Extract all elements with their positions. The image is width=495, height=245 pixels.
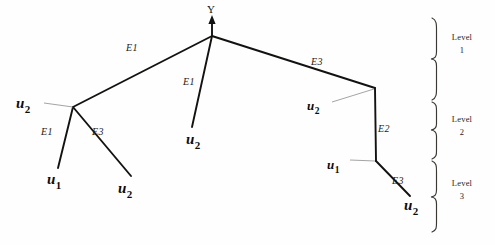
node-label-right-corner-u2: u2: [307, 99, 319, 116]
level-braces: [431, 18, 437, 232]
level-annotation-3: Level 3: [447, 177, 477, 203]
brace-level-2: [431, 102, 437, 159]
node-subscript: 2: [25, 103, 31, 115]
edge-root-to-left-junction: [73, 36, 212, 107]
level-annotation-name: Level: [447, 177, 477, 190]
node-base-letter: u: [186, 131, 194, 147]
edge-left-junction-to-u1: [58, 107, 73, 168]
edge-label-right-u2: E3: [392, 176, 404, 186]
node-base-letter: u: [118, 180, 126, 196]
node-label-middle-leaf-u2: u2: [186, 132, 200, 151]
edge-label-root-left: E1: [126, 43, 138, 53]
root-node-label: Y: [207, 4, 215, 15]
edge-root-to-right-corner: [212, 36, 375, 88]
node-base-letter: u: [47, 171, 55, 187]
level-annotation-number: 1: [447, 44, 477, 57]
level-annotation-number: 2: [447, 126, 477, 139]
edge-label-root-middle: E1: [183, 77, 195, 87]
level-annotation-name: Level: [447, 113, 477, 126]
node-subscript: 1: [335, 165, 340, 175]
tree-diagram: Y E1 E1 E3 E1 E3 E2 E3 u2 u1 u2 u2 u2 u1…: [0, 0, 495, 245]
level-annotation-2: Level 2: [447, 113, 477, 139]
brace-level-1: [431, 18, 437, 100]
node-label-left-junction: u2: [16, 96, 30, 115]
edge-label-left-u1: E1: [41, 127, 53, 137]
node-subscript: 2: [127, 188, 133, 200]
diagram-canvas: [0, 0, 495, 245]
node-subscript: 2: [195, 139, 201, 151]
node-subscript: 1: [56, 179, 62, 191]
edge-left-junction-to-u2: [73, 107, 131, 176]
leader-line-right-u2: [332, 89, 374, 102]
node-label-left-leaf-u2: u2: [118, 181, 132, 200]
node-label-right-leaf-u2: u2: [404, 198, 418, 217]
level-annotation-1: Level 1: [447, 31, 477, 57]
leader-line-left-u2: [44, 103, 73, 107]
brace-level-3: [431, 161, 437, 232]
edge-label-left-u2: E3: [92, 127, 104, 137]
leader-lines: [44, 89, 375, 161]
node-label-left-leaf-u1: u1: [47, 172, 61, 191]
tree-edges: [58, 36, 410, 196]
node-subscript: 2: [315, 106, 320, 116]
node-subscript: 2: [413, 205, 419, 217]
node-base-letter: u: [327, 157, 334, 172]
node-label-right-node-u1: u1: [327, 158, 339, 175]
edge-label-root-right: E3: [311, 57, 323, 67]
edge-right-vertical-e2: [375, 88, 376, 161]
root-arrow-icon: [208, 15, 215, 36]
edge-label-right-vertical: E2: [378, 124, 390, 134]
node-base-letter: u: [307, 98, 314, 113]
node-base-letter: u: [404, 197, 412, 213]
leader-line-right-u1: [350, 160, 375, 161]
level-annotation-number: 3: [447, 190, 477, 203]
node-base-letter: u: [16, 95, 24, 111]
level-annotation-name: Level: [447, 31, 477, 44]
